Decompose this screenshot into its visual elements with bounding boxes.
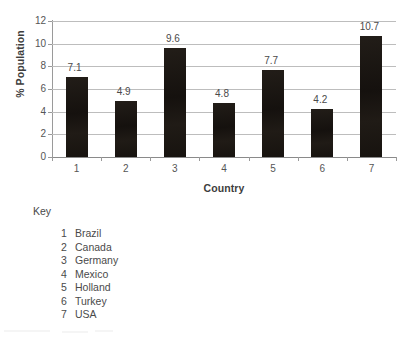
scan-artifact [95,330,113,332]
x-tick-mark-2 [150,157,151,161]
bar-value-label-4: 4.8 [205,89,239,99]
y-tick-label-12: 12 [16,16,46,26]
key-country-name: Brazil [75,227,101,239]
bar-value-label-5: 7.7 [254,56,288,66]
bar-6 [311,109,333,157]
key-row: 2Canada [33,241,283,255]
x-tick-label-6: 6 [302,164,342,174]
key-number: 7 [33,308,75,320]
bar-value-label-2: 4.9 [107,87,141,97]
key-number: 2 [33,241,75,253]
gridline-12 [52,21,396,22]
y-tick-mark-8 [48,66,52,67]
key-country-name: Germany [75,254,118,266]
x-tick-mark-6 [347,157,348,161]
key-number: 4 [33,268,75,280]
x-tick-label-3: 3 [155,164,195,174]
x-tick-mark-3 [199,157,200,161]
y-tick-mark-0 [48,157,52,158]
key-row: 4Mexico [33,268,283,282]
scan-artifact [4,330,50,332]
x-tick-label-2: 2 [106,164,146,174]
x-tick-label-7: 7 [351,164,391,174]
key-row: 7USA [33,308,283,322]
bar-1 [66,77,88,157]
key-rows: 1Brazil2Canada3Germany4Mexico5Holland6Tu… [33,227,283,322]
key-number: 6 [33,295,75,307]
y-tick-label-6: 6 [16,84,46,94]
bar-value-label-1: 7.1 [58,63,92,73]
bar-value-label-6: 4.2 [303,95,337,105]
bar-4 [213,103,235,157]
x-tick-label-1: 1 [57,164,97,174]
gridline-10 [52,44,396,45]
x-tick-label-5: 5 [253,164,293,174]
bar-5 [262,70,284,157]
x-tick-mark-7 [396,157,397,161]
key-country-name: Mexico [75,268,108,280]
x-tick-mark-4 [249,157,250,161]
bar-value-label-3: 9.6 [156,34,190,44]
key-heading: Key [33,205,283,217]
bar-chart-figure: % Population 024681012 1234567 Country 7… [0,0,407,198]
key-number: 5 [33,281,75,293]
y-tick-label-4: 4 [16,107,46,117]
chart-key: Key 1Brazil2Canada3Germany4Mexico5Hollan… [33,205,283,322]
key-row: 1Brazil [33,227,283,241]
key-country-name: Holland [75,281,111,293]
gridline-0 [52,157,396,158]
key-row: 5Holland [33,281,283,295]
y-axis-tick-labels: 024681012 [14,0,46,198]
key-country-name: Canada [75,241,112,253]
y-tick-label-10: 10 [16,39,46,49]
y-tick-mark-2 [48,134,52,135]
x-axis-title: Country [52,182,396,194]
y-tick-mark-6 [48,89,52,90]
bar-2 [115,101,137,157]
x-tick-mark-0 [52,157,53,161]
key-number: 1 [33,227,75,239]
key-row: 6Turkey [33,295,283,309]
bar-3 [164,48,186,157]
y-tick-label-8: 8 [16,61,46,71]
y-tick-mark-10 [48,44,52,45]
x-tick-mark-5 [298,157,299,161]
y-tick-mark-12 [48,21,52,22]
bar-value-label-7: 10.7 [352,22,386,32]
key-number: 3 [33,254,75,266]
gridline-8 [52,66,396,67]
key-row: 3Germany [33,254,283,268]
key-country-name: USA [75,308,97,320]
bar-7 [360,36,382,157]
x-tick-label-4: 4 [204,164,244,174]
y-tick-label-2: 2 [16,129,46,139]
y-tick-label-0: 0 [16,152,46,162]
y-tick-mark-4 [48,112,52,113]
scan-artifact [62,331,88,333]
x-tick-mark-1 [101,157,102,161]
key-country-name: Turkey [75,295,107,307]
